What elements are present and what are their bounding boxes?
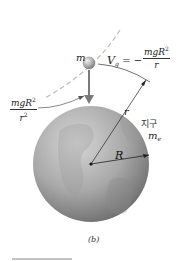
- force-numerator: mgR2: [10, 97, 37, 109]
- force-fraction: mgR2 r2: [10, 97, 37, 123]
- particle-mass-text: m: [76, 52, 85, 63]
- potential-equals: = −: [122, 55, 142, 66]
- potential-denominator: r: [154, 59, 158, 70]
- particle-mass-label: m: [76, 53, 85, 63]
- distance-r-arrowhead: [141, 80, 146, 86]
- earth-mass-label: me: [148, 131, 161, 142]
- force-leader-line: [38, 96, 84, 108]
- earth-radius-text: R: [115, 149, 123, 162]
- gravity-arrowhead: [84, 95, 94, 104]
- potential-fraction: mgR2 r: [143, 46, 170, 70]
- distance-r-label: r: [124, 107, 129, 117]
- potential-lhs: Vg = −: [107, 55, 142, 67]
- earth-korean-label: 지구: [141, 117, 157, 130]
- force-leader-arrowhead: [78, 96, 84, 100]
- distance-r-text: r: [124, 106, 129, 117]
- potential-symbol: V: [107, 54, 115, 67]
- force-denominator: r2: [19, 110, 27, 123]
- earth-mass-sub: e: [157, 135, 161, 142]
- figure-caption: (b): [88, 235, 99, 244]
- potential-numerator: mgR2: [143, 46, 170, 58]
- force-den-sup: 2: [24, 111, 28, 118]
- potential-subscript: g: [115, 60, 119, 67]
- potential-num-sup: 2: [165, 45, 169, 52]
- force-num-sup: 2: [32, 96, 36, 103]
- force-num-text: mgR: [11, 98, 32, 108]
- earth-radius-label: R: [115, 150, 123, 161]
- potential-num-text: mgR: [144, 47, 165, 57]
